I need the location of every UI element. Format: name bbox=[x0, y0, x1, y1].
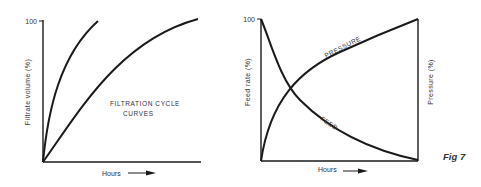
left-x-axis-label: Hours bbox=[102, 170, 121, 177]
figure-label: Fig 7 bbox=[443, 151, 466, 162]
feed-curve-label: FEED bbox=[319, 115, 339, 131]
feed-curve bbox=[261, 19, 418, 160]
figure: 100 Filtrate volume (%) FILTRATION CYCLE… bbox=[0, 0, 481, 187]
left-y-axis-label: Filtrate volume (%) bbox=[24, 59, 32, 125]
feed-pressure-chart: 100 Feed rate (%) Pressure (%) PRESSURE … bbox=[243, 16, 435, 174]
slow-cycle-curve bbox=[43, 19, 198, 162]
pressure-curve bbox=[261, 19, 418, 161]
filtration-cycle-chart: 100 Filtrate volume (%) FILTRATION CYCLE… bbox=[24, 18, 201, 177]
feed-rate-axis-label: Feed rate (%) bbox=[244, 58, 252, 106]
annotation-line-2: CURVES bbox=[123, 110, 154, 117]
arrow-right-icon bbox=[343, 169, 368, 174]
annotation-line-1: FILTRATION CYCLE bbox=[110, 100, 180, 107]
left-y-tick-label: 100 bbox=[25, 18, 37, 25]
pressure-curve-label: PRESSURE bbox=[323, 35, 362, 59]
pressure-axis-label: Pressure (%) bbox=[427, 59, 435, 105]
fast-cycle-curve bbox=[43, 21, 98, 162]
right-x-axis-label: Hours bbox=[318, 166, 337, 173]
right-y-tick-label: 100 bbox=[243, 16, 255, 23]
arrow-right-icon bbox=[128, 171, 156, 176]
